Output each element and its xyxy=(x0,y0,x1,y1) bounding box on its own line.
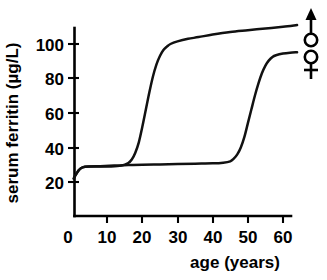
x-tick-label-20: 20 xyxy=(133,228,152,247)
y-tick-label-20: 20 xyxy=(45,174,64,193)
x-tick-label-50: 50 xyxy=(239,228,258,247)
x-axis-title: age (years) xyxy=(190,253,280,272)
legend-marker-male xyxy=(305,8,317,46)
chart-canvas: 100 80 60 40 20 0 10 20 30 40 50 60 age … xyxy=(0,0,327,280)
x-tick-label-40: 40 xyxy=(204,228,223,247)
legend-marker-female xyxy=(304,51,318,79)
y-tick-label-40: 40 xyxy=(45,140,64,159)
y-tick-label-80: 80 xyxy=(45,70,64,89)
series-line-male xyxy=(74,25,297,179)
y-axis-title: serum ferritin (µg/L) xyxy=(3,43,22,204)
x-tick-label-60: 60 xyxy=(274,228,293,247)
x-tick-label-10: 10 xyxy=(98,228,117,247)
x-tick-label-30: 30 xyxy=(169,228,188,247)
y-tick-label-60: 60 xyxy=(45,105,64,124)
series-line-female xyxy=(74,52,297,178)
serum-ferritin-chart: 100 80 60 40 20 0 10 20 30 40 50 60 age … xyxy=(0,0,327,280)
y-tick-label-100: 100 xyxy=(36,36,64,55)
x-tick-label-0: 0 xyxy=(63,228,72,247)
mars-arrowhead xyxy=(306,8,317,20)
mars-circle xyxy=(305,34,317,46)
venus-circle xyxy=(305,51,317,63)
